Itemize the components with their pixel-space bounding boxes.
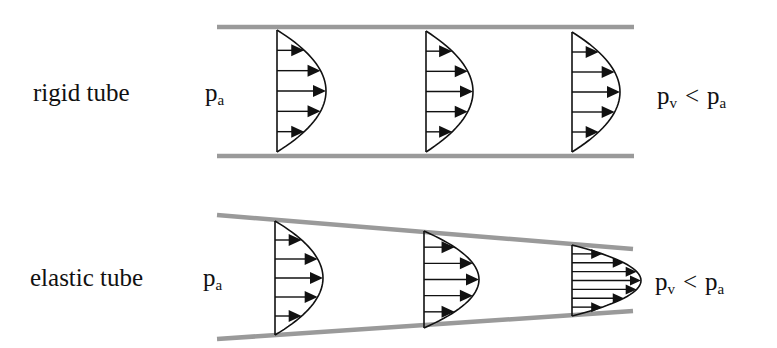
inlet-pressure-label: pa <box>203 264 223 293</box>
inlet-pressure-label: pa <box>205 79 225 108</box>
velocity-profile <box>275 221 323 335</box>
velocity-profile <box>572 32 620 152</box>
pressure-symbol: p <box>707 82 720 109</box>
pressure-subscript: v <box>668 281 676 297</box>
pressure-subscript: v <box>670 95 678 111</box>
arrow-head-icon <box>466 274 479 286</box>
arrow-head-icon <box>313 85 326 97</box>
arrow-head-icon <box>289 234 302 246</box>
arrow-head-icon <box>460 86 473 98</box>
arrow-head-icon <box>613 258 624 268</box>
pressure-symbol: p <box>205 79 218 106</box>
pressure-symbol: p <box>203 264 216 291</box>
outlet-pressure-relation: pv<pa <box>655 268 725 297</box>
velocity-profiles <box>275 221 641 335</box>
outlet-pressure-relation: pv<pa <box>657 82 727 111</box>
arrow-head-icon <box>460 290 473 302</box>
tube-walls <box>217 215 633 339</box>
pressure-symbol: p <box>705 268 718 295</box>
arrow-head-icon <box>439 45 452 57</box>
pressure-symbol: p <box>655 268 668 295</box>
velocity-profiles <box>277 30 620 152</box>
pressure-subscript: a <box>718 281 725 297</box>
rigid-tube-label: rigid tube <box>33 79 130 106</box>
velocity-profile <box>424 231 479 328</box>
arrow-head-icon <box>626 284 637 294</box>
velocity-profile <box>572 245 641 316</box>
pressure-subscript: a <box>216 277 223 293</box>
arrow-head-icon <box>439 126 452 138</box>
elastic-tube-row: elastic tube pa pv<pa <box>30 215 725 339</box>
arrow-head-icon <box>460 257 473 269</box>
flow-diagram: rigid tube pa pv<pa elastic tube pa pv<p… <box>0 0 777 348</box>
arrow-head-icon <box>607 86 620 98</box>
less-than-operator: < <box>685 82 699 109</box>
rigid-tube-row: rigid tube pa pv<pa <box>33 27 727 156</box>
arrow-head-icon <box>310 272 323 284</box>
arrow-head-icon <box>291 44 304 56</box>
pressure-subscript: a <box>218 92 225 108</box>
arrow-head-icon <box>586 126 599 138</box>
elastic-tube-label: elastic tube <box>30 264 143 291</box>
less-than-operator: < <box>683 268 697 295</box>
pressure-subscript: a <box>720 95 727 111</box>
arrow-head-icon <box>630 276 641 286</box>
arrow-head-icon <box>626 267 637 277</box>
arrow-head-icon <box>613 293 624 303</box>
arrow-head-icon <box>591 249 602 259</box>
arrow-head-icon <box>586 46 599 58</box>
arrow-head-icon <box>289 310 302 322</box>
arrow-head-icon <box>591 302 602 312</box>
velocity-profile <box>426 31 473 152</box>
velocity-profile <box>277 30 326 152</box>
arrow-head-icon <box>291 126 304 138</box>
pressure-symbol: p <box>657 82 670 109</box>
bottom-wall <box>217 311 633 339</box>
